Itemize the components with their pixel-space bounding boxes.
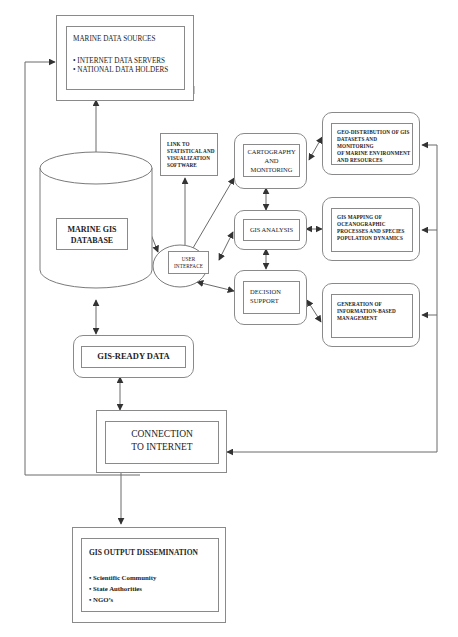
geo-line: OF MARINE ENVIRONMENT <box>337 150 412 157</box>
info-management-box: GENERATION OF INFORMATION-BASED MANAGEME… <box>322 283 420 347</box>
link-line: SOFTWARE <box>167 162 215 169</box>
cartography-line: AND <box>244 156 299 165</box>
cartography-box: CARTOGRAPHY AND MONITORING <box>234 133 307 189</box>
info-line: INFORMATION-BASED <box>337 308 396 315</box>
connection-line: TO INTERNET <box>106 441 218 454</box>
decision-line: SUPPORT <box>250 296 281 305</box>
sources-item: NATIONAL DATA HOLDERS <box>73 66 168 75</box>
sources-title: MARINE DATA SOURCES <box>73 35 184 44</box>
gis-mapping-box: GIS MAPPING OF OCEANOGRAPHIC PROCESSES A… <box>322 197 420 261</box>
output-dissemination-box: GIS OUTPUT DISSEMINATION Scientific Comm… <box>72 527 226 623</box>
connection-line: CONNECTION <box>106 428 218 441</box>
gis-analysis-label: GIS ANALYSIS <box>244 226 299 233</box>
decision-support-box: DECISION SUPPORT <box>234 270 307 325</box>
cartography-line: CARTOGRAPHY <box>244 147 299 156</box>
mapping-line: GIS MAPPING OF <box>337 214 405 221</box>
mapping-line: POPULATION DYNAMICS <box>337 235 405 242</box>
info-line: MANAGEMENT <box>337 315 396 322</box>
gis-ready-data-box: GIS-READY DATA <box>73 335 194 378</box>
link-line: LINK TO <box>167 141 215 148</box>
mapping-line: PROCESSES AND SPECIES <box>337 228 405 235</box>
output-list: Scientific Community State Authorities N… <box>89 572 156 605</box>
output-item: NGO’s <box>89 594 156 605</box>
output-item: Scientific Community <box>89 572 156 583</box>
cartography-line: MONITORING <box>244 165 299 174</box>
ui-line: INTERFACE <box>169 263 208 270</box>
marine-data-sources-box: MARINE DATA SOURCES INTERNET DATA SERVER… <box>56 15 194 101</box>
database-label-line: DATABASE <box>57 235 127 246</box>
database-label-line: MARINE GIS <box>57 224 127 235</box>
output-title: GIS OUTPUT DISSEMINATION <box>89 548 198 557</box>
user-interface-label: USER INTERFACE <box>168 251 209 274</box>
gis-ready-label: GIS-READY DATA <box>82 351 185 361</box>
diagram-canvas: MARINE DATA SOURCES INTERNET DATA SERVER… <box>0 0 458 637</box>
link-line: VISUALIZATION <box>167 155 215 162</box>
geo-distribution-box: GEO-DISTRIBUTION OF GIS DATASETS AND MON… <box>322 112 420 175</box>
output-item: State Authorities <box>89 583 156 594</box>
sources-item: INTERNET DATA SERVERS <box>73 57 168 66</box>
ui-line: USER <box>169 256 208 263</box>
mapping-line: OCEANOGRAPHIC <box>337 221 405 228</box>
database-label: MARINE GIS DATABASE <box>56 218 128 250</box>
geo-line: DATASETS AND MONITORING <box>337 136 412 150</box>
sources-list: INTERNET DATA SERVERS NATIONAL DATA HOLD… <box>73 57 168 75</box>
info-line: GENERATION OF <box>337 301 396 308</box>
geo-line: GEO-DISTRIBUTION OF GIS <box>337 129 412 136</box>
gis-analysis-box: GIS ANALYSIS <box>234 210 307 250</box>
connection-internet-box: CONNECTION TO INTERNET <box>96 410 227 473</box>
link-line: STATISTICAL AND <box>167 148 215 155</box>
decision-line: DECISION <box>250 287 281 296</box>
geo-line: AND RESOURCES <box>337 157 412 164</box>
link-software-box: LINK TO STATISTICAL AND VISUALIZATION SO… <box>160 133 218 176</box>
